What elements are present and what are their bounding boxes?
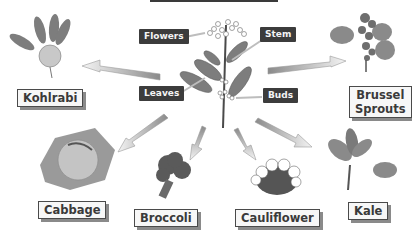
label-brussel-sprouts: Brussel Sprouts: [349, 86, 412, 118]
cabbage-icon: [40, 128, 115, 190]
label-cabbage: Cabbage: [38, 201, 106, 219]
arrow-to-kale-icon: [255, 118, 312, 147]
label-leaves: Leaves: [139, 86, 184, 101]
label-cauliflower: Cauliflower: [235, 209, 320, 227]
kohlrabi-icon: [7, 14, 73, 78]
label-kale: Kale: [348, 202, 388, 220]
arrow-to-brussel-sprouts-icon: [268, 56, 346, 74]
arrow-to-kohlrabi-icon: [82, 60, 160, 80]
label-flowers: Flowers: [139, 29, 189, 44]
label-stem: Stem: [260, 27, 296, 42]
arrow-to-cauliflower-icon: [234, 128, 256, 160]
label-broccoli: Broccoli: [134, 209, 198, 227]
cauliflower-icon: [251, 159, 301, 195]
wild-cabbage-plant-icon: [177, 20, 262, 129]
arrow-to-broccoli-icon: [190, 126, 206, 160]
label-kohlrabi: Kohlrabi: [17, 89, 83, 107]
label-buds: Buds: [263, 88, 298, 103]
kale-icon: [324, 127, 397, 190]
arrow-to-cabbage-icon: [118, 114, 168, 152]
label-brussel-sprouts-line2: Sprouts: [355, 102, 406, 116]
label-brussel-sprouts-line1: Brussel: [355, 88, 406, 102]
broccoli-icon: [156, 152, 191, 199]
